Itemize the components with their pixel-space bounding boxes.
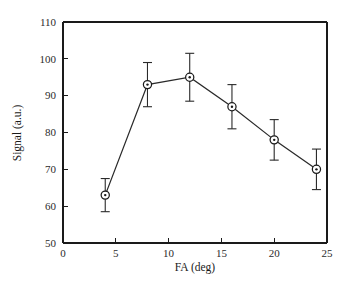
data-point-center-dot (315, 168, 317, 170)
y-tick-label: 110 (40, 16, 57, 28)
y-tick-label: 100 (40, 53, 57, 65)
data-point-center-dot (189, 76, 191, 78)
data-point-center-dot (231, 106, 233, 108)
y-tick-label: 90 (45, 89, 57, 101)
data-point-center-dot (273, 139, 275, 141)
y-tick-label: 50 (45, 237, 57, 249)
x-tick-label: 15 (216, 247, 228, 259)
y-tick-label: 60 (45, 200, 57, 212)
x-tick-label: 25 (322, 247, 334, 259)
x-tick-label: 20 (269, 247, 281, 259)
chart-figure: 5060708090100110 0510152025 FA (deg) Sig… (0, 0, 351, 285)
y-tick-label: 70 (45, 163, 57, 175)
y-axis-title: Signal (a.u.) (11, 105, 24, 162)
data-point-center-dot (104, 194, 106, 196)
x-tick-label: 0 (60, 247, 66, 259)
x-tick-label: 10 (163, 247, 175, 259)
data-point-center-dot (146, 83, 148, 85)
x-tick-label: 5 (113, 247, 119, 259)
x-axis-title: FA (deg) (175, 261, 216, 274)
line-chart: 5060708090100110 0510152025 FA (deg) Sig… (0, 0, 351, 285)
y-tick-label: 80 (45, 126, 57, 138)
